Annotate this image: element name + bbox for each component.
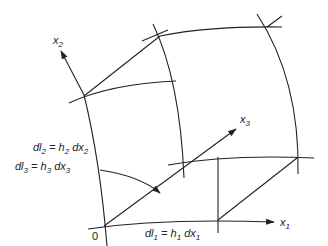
coordinate-diagram: x2 x3 x1 0 dl2 = h2 dx2 dl3 = h3 dx3 dl1…: [0, 0, 328, 246]
x3-axis: [104, 129, 236, 226]
mid-vertical-curve: [153, 24, 184, 178]
dl3-equation: dl3 = h3 dx3: [15, 160, 71, 175]
x3-label: x3: [239, 113, 251, 128]
right-vertical-curve: [257, 14, 298, 174]
lower-horizontal-curve: [168, 157, 314, 165]
x1-label: x1: [279, 216, 290, 231]
dl3-pointer: [100, 170, 160, 193]
origin-label: 0: [92, 230, 98, 242]
x2-label: x2: [52, 34, 64, 49]
top-curve: [160, 27, 282, 36]
dl2-equation: dl2 = h2 dx2: [33, 141, 89, 156]
tick-top-right: [267, 16, 282, 27]
diagonal-x1-to-right: [218, 158, 297, 220]
dl1-equation: dl1 = h1 dx1: [145, 227, 200, 242]
